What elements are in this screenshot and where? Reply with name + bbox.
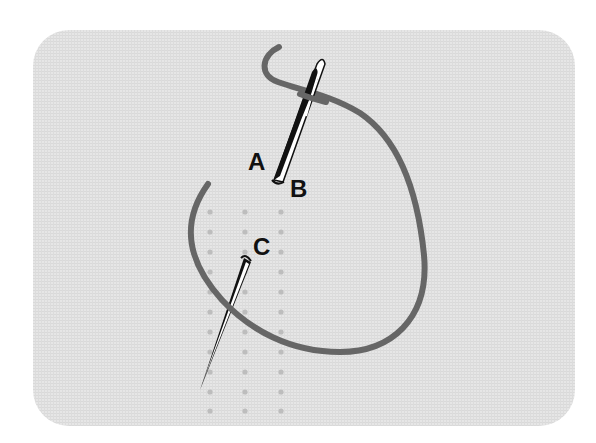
grid-dot xyxy=(278,289,283,294)
grid-dot xyxy=(278,229,283,234)
grid-dot xyxy=(242,309,247,314)
grid-dot xyxy=(207,349,212,354)
grid-dot xyxy=(207,369,212,374)
label-a: A xyxy=(248,150,265,174)
grid-dot xyxy=(278,309,283,314)
grid-dot xyxy=(242,329,247,334)
grid-dot xyxy=(207,229,212,234)
grid-dot xyxy=(207,269,212,274)
grid-dot xyxy=(207,389,212,394)
diagram-canvas xyxy=(0,0,596,443)
grid-dot xyxy=(278,209,283,214)
grid-dot xyxy=(207,309,212,314)
grid-dot xyxy=(278,389,283,394)
grid-dot xyxy=(278,269,283,274)
label-c: C xyxy=(253,235,270,259)
grid-dot xyxy=(278,349,283,354)
grid-dot xyxy=(242,249,247,254)
grid-dot xyxy=(278,369,283,374)
grid-dot xyxy=(207,209,212,214)
grid-dot xyxy=(242,209,247,214)
grid-dot xyxy=(278,408,283,413)
grid-dot xyxy=(207,408,212,413)
label-b: B xyxy=(290,177,307,201)
grid-dot xyxy=(242,389,247,394)
grid-dot xyxy=(242,349,247,354)
grid-dot xyxy=(207,249,212,254)
grid-dot xyxy=(207,329,212,334)
stitch-diagram: A B C xyxy=(0,0,596,443)
grid-dot xyxy=(278,249,283,254)
grid-dot xyxy=(242,369,247,374)
grid-dot xyxy=(242,408,247,413)
grid-dot xyxy=(242,289,247,294)
grid-dot xyxy=(242,229,247,234)
grid-dot xyxy=(278,329,283,334)
